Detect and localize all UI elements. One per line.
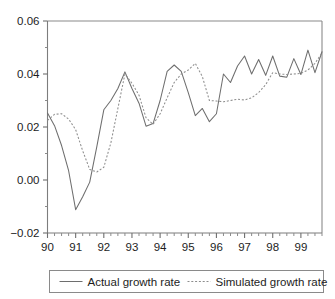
x-axis-tick-labels: 90919293949596979899 (41, 241, 307, 253)
y-tick-label: 0.04 (17, 68, 40, 80)
y-tick-label: −0.02 (10, 227, 39, 239)
legend-label-simulated: Simulated growth rate (216, 276, 328, 288)
x-tick-label: 90 (41, 241, 54, 253)
y-tick-label: 0.00 (17, 174, 39, 186)
x-tick-label: 95 (182, 241, 195, 253)
y-axis-tick-labels: 0.060.040.020.00−0.02 (10, 15, 40, 239)
y-tick-label: 0.06 (17, 15, 39, 27)
chart-legend: Actual growth rateSimulated growth rate (50, 271, 328, 293)
x-tick-label: 93 (126, 241, 139, 253)
x-tick-label: 94 (154, 241, 167, 253)
growth-rate-line-chart: 0.060.040.020.00−0.02 909192939495969798… (0, 0, 335, 299)
x-tick-label: 96 (210, 241, 223, 253)
x-tick-label: 91 (69, 241, 82, 253)
series-line-actual-growth-rate (48, 50, 323, 210)
chart-figure: 0.060.040.020.00−0.02 909192939495969798… (0, 0, 335, 299)
x-tick-label: 92 (97, 241, 110, 253)
x-tick-label: 97 (238, 241, 251, 253)
x-tick-label: 98 (266, 241, 279, 253)
legend-label-actual: Actual growth rate (88, 276, 181, 288)
y-tick-label: 0.02 (17, 121, 39, 133)
data-series-group (48, 50, 323, 210)
series-line-simulated-growth-rate (48, 53, 323, 172)
plot-axes (43, 21, 322, 238)
x-tick-label: 99 (294, 241, 307, 253)
